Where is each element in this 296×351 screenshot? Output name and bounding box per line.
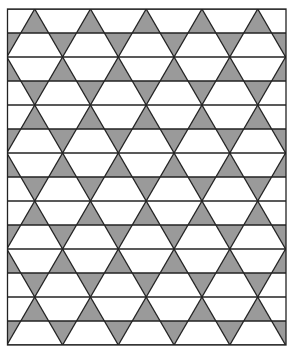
tiling-figure [0,0,296,351]
frame-background [0,0,296,351]
tiling-svg [0,0,296,351]
